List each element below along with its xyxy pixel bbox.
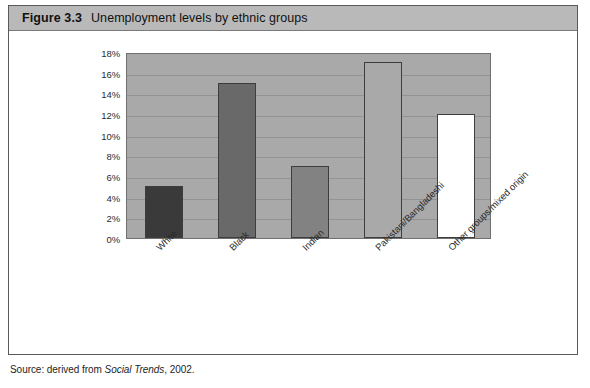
y-axis-tick-label: 0% [78, 234, 120, 245]
y-axis-tick-label: 16% [78, 68, 120, 79]
y-axis-tick-label: 4% [78, 192, 120, 203]
bar [291, 166, 329, 238]
source-prefix: Source: derived from [10, 364, 105, 375]
y-axis-tick-labels: 18%16%14%12%10%8%6%4%2%0% [72, 53, 120, 239]
x-axis-tick-labels: WhiteBlackIndianPakistani/BangladeshiOth… [126, 239, 491, 349]
source-publication: Social Trends [105, 364, 165, 375]
y-axis-tick-label: 14% [78, 89, 120, 100]
bar-chart: 18%16%14%12%10%8%6%4%2%0% WhiteBlackIndi… [9, 31, 577, 355]
bar [218, 83, 256, 238]
figure-caption: Unemployment levels by ethnic groups [91, 11, 308, 25]
bars-layer [127, 54, 490, 238]
y-axis-tick-label: 18% [78, 48, 120, 59]
y-axis-tick-label: 10% [78, 130, 120, 141]
plot-area [126, 53, 491, 239]
bar [437, 114, 475, 238]
figure-title-bar: Figure 3.3 Unemployment levels by ethnic… [9, 6, 577, 31]
bar [145, 186, 183, 238]
y-axis-tick-label: 12% [78, 110, 120, 121]
source-suffix: , 2002. [164, 364, 194, 375]
y-axis-tick-label: 8% [78, 151, 120, 162]
y-axis-tick-label: 6% [78, 172, 120, 183]
source-note: Source: derived from Social Trends, 2002… [10, 364, 195, 375]
figure-frame: Figure 3.3 Unemployment levels by ethnic… [8, 5, 578, 355]
bar [364, 62, 402, 238]
figure-number-label: Figure 3.3 [22, 11, 82, 25]
y-axis-tick-label: 2% [78, 213, 120, 224]
